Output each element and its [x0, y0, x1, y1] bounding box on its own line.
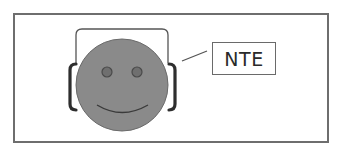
right-eye-icon: [132, 67, 142, 77]
left-ear-cup-icon: [70, 64, 76, 110]
leader-line: [182, 51, 207, 61]
headphone-face-diagram: [0, 0, 343, 152]
left-eye-icon: [102, 67, 112, 77]
face-icon: [76, 39, 168, 131]
right-ear-cup-icon: [169, 64, 175, 110]
nte-label: NTE: [212, 42, 276, 75]
nte-label-text: NTE: [224, 48, 263, 70]
